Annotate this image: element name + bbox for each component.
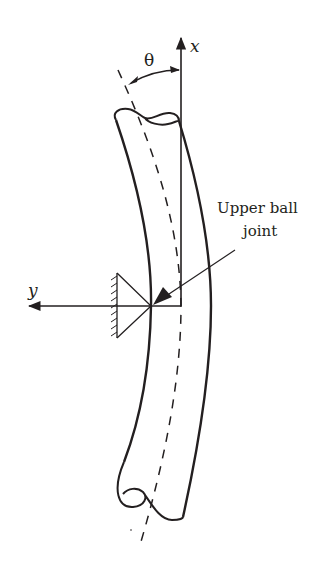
shaft-right-edge	[179, 121, 211, 517]
joint-label-line1: Upper ball	[217, 199, 298, 217]
shaft-top-break	[115, 109, 179, 125]
joint-leader-line	[160, 250, 235, 300]
x-axis-label: x	[190, 36, 200, 56]
shaft-diagram: x y θ Upper ball joint	[0, 0, 319, 564]
centerline-end-dot	[130, 529, 132, 531]
shaft-bottom-break	[118, 462, 183, 520]
angle-arrowhead-right	[170, 66, 180, 73]
shaft-left-edge	[116, 120, 151, 462]
y-axis-label: y	[27, 280, 38, 300]
angle-arrowhead-left	[128, 76, 138, 85]
joint-label-line2: joint	[241, 222, 277, 240]
joint-leader-arrowhead	[153, 287, 172, 305]
angle-theta-label: θ	[144, 50, 154, 70]
